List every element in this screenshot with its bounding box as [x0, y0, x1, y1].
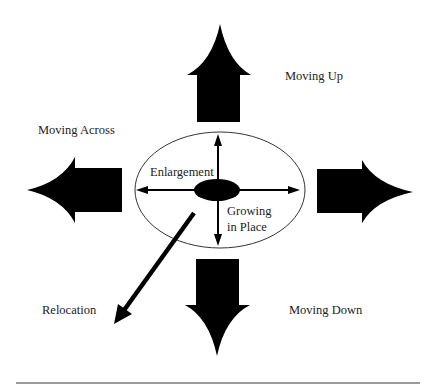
label-moving-up: Moving Up [285, 70, 343, 83]
label-relocation: Relocation [42, 304, 96, 317]
label-growing-line1: Growing [227, 205, 271, 218]
label-growing-line2: in Place [227, 221, 267, 234]
arrow-left-icon [27, 157, 122, 223]
relocation-arrow-icon [114, 213, 194, 324]
arrow-right-icon [317, 160, 413, 223]
arrow-down-icon [185, 259, 250, 356]
center-site-blob [194, 179, 240, 201]
growth-diagram [0, 0, 436, 388]
label-moving-across: Moving Across [38, 124, 115, 137]
label-moving-down: Moving Down [289, 304, 362, 317]
label-enlargement: Enlargement [150, 166, 214, 179]
arrow-up-icon [187, 24, 251, 122]
bottom-rule [16, 382, 420, 384]
